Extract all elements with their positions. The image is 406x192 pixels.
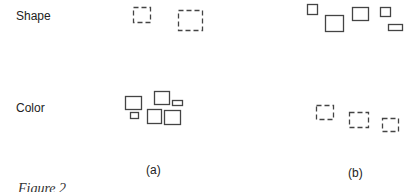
color-a-rect [155, 92, 170, 105]
color-b-rect [350, 113, 369, 128]
shape-b-rect [326, 16, 344, 32]
row-label-shape: Shape [16, 9, 51, 23]
panel-label-b: (b) [348, 166, 363, 180]
color-a-rect [165, 111, 181, 125]
figure: Shape Color (a) (b) Figure 2 [0, 0, 406, 192]
shape-b-rect [389, 25, 403, 31]
color-a-rect [173, 101, 183, 106]
row-label-color: Color [16, 101, 45, 115]
color-a-rect [131, 113, 139, 119]
color-a-rect [126, 97, 142, 110]
shape-b-rect [308, 5, 318, 15]
panel-label-a: (a) [146, 163, 161, 177]
color-b-rect [317, 106, 334, 120]
color-b-rect [383, 119, 399, 132]
figure-shapes [0, 0, 406, 192]
shape-a-rect [179, 11, 203, 31]
color-a-rect [148, 110, 162, 124]
shape-b-rect [353, 8, 369, 21]
shape-a-rect [134, 8, 151, 23]
shape-b-rect [381, 8, 391, 17]
figure-caption: Figure 2 [18, 181, 66, 192]
